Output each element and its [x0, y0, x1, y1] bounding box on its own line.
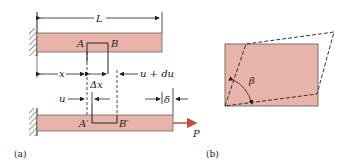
- u-label: u: [59, 93, 65, 104]
- panel-a: L A B x Δx u + du u δ A′: [14, 12, 200, 159]
- point-a-label: A: [76, 38, 84, 49]
- load-label: P: [192, 128, 200, 139]
- caption-b: (b): [206, 149, 219, 159]
- delta-x-label: Δx: [89, 79, 103, 90]
- delta-label: δ: [164, 94, 170, 105]
- point-a-prime-label: A′: [78, 118, 89, 129]
- u-plus-du-label: u + du: [140, 68, 174, 79]
- point-b-prime-label: B′: [118, 118, 129, 129]
- element-undeformed: [225, 44, 318, 106]
- x-label: x: [59, 68, 65, 79]
- caption-a: (a): [14, 149, 26, 159]
- fixed-wall-bottom: [29, 108, 37, 136]
- panel-b: β (b): [206, 32, 334, 159]
- fixed-wall-top: [29, 28, 37, 56]
- angle-label: β: [248, 75, 255, 86]
- length-label: L: [95, 13, 103, 24]
- figure: L A B x Δx u + du u δ A′: [0, 0, 351, 165]
- point-b-label: B: [110, 38, 118, 49]
